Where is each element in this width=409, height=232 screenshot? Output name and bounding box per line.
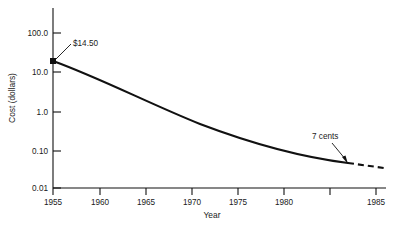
y-axis-title: Cost (dollars) [7,73,17,123]
cost-decline-line-chart: 100.0 10.0 1.0 0.10 0.01 Cost (dollars) … [0,0,409,232]
y-tick-label-10: 10.0 [32,68,48,77]
y-tick-marks [53,33,61,188]
x-tick-label-1975: 1975 [229,198,248,207]
x-tick-label-1980: 1980 [275,198,294,207]
x-tick-label-1965: 1965 [137,198,156,207]
figure-container: 100.0 10.0 1.0 0.10 0.01 Cost (dollars) … [0,0,409,232]
x-tick-marks [53,188,376,195]
x-axis-title: Year [204,210,221,220]
start-point-marker [50,58,56,64]
x-tick-label-1985: 1985 [367,198,386,207]
start-label-leader-line [56,44,71,59]
y-tick-label-1: 1.0 [37,108,49,117]
y-tick-label-0.01: 0.01 [32,184,48,193]
y-tick-label-100: 100.0 [28,29,49,38]
y-tick-label-0.10: 0.10 [32,147,48,156]
x-tick-label-1960: 1960 [91,198,110,207]
start-value-annotation: $14.50 [73,39,98,48]
cost-curve-solid [53,61,348,163]
end-value-annotation: 7 cents [312,132,338,141]
x-tick-label-1955: 1955 [44,198,63,207]
x-tick-label-1970: 1970 [183,198,202,207]
cost-curve-dashed-projection [348,163,384,168]
